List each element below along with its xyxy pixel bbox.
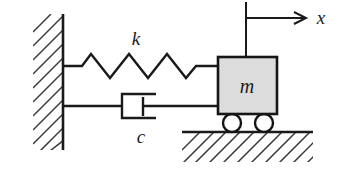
spring-stiffness-label: k xyxy=(132,28,141,49)
displacement-axis xyxy=(246,2,306,57)
mass-spring-damper-figure: k c xyxy=(0,0,354,174)
wheel-right xyxy=(255,114,273,132)
ground-surface xyxy=(182,132,318,168)
ground-hatching xyxy=(182,132,318,168)
mass-label: m xyxy=(240,75,254,97)
spring-zigzag xyxy=(63,54,218,78)
displacement-axis-label: x xyxy=(316,7,326,28)
fixed-wall xyxy=(33,14,69,158)
coil-spring xyxy=(63,54,218,78)
damping-coefficient-label: c xyxy=(137,126,146,147)
dashpot-damper xyxy=(63,94,218,118)
roller-wheels xyxy=(223,114,273,132)
wheel-left xyxy=(223,114,241,132)
schematic-canvas: k c xyxy=(0,0,354,174)
